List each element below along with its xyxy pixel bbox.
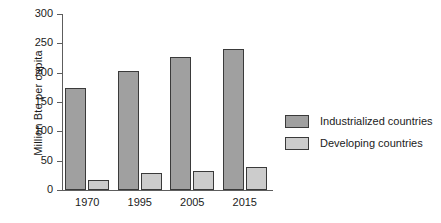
legend-item-industrialized: Industrialized countries bbox=[285, 110, 433, 132]
y-tick: 250 bbox=[57, 43, 62, 44]
x-tick-label: 2015 bbox=[233, 196, 257, 208]
y-tick: 50 bbox=[57, 161, 62, 162]
y-tick: 200 bbox=[57, 73, 62, 74]
legend-swatch-industrialized bbox=[285, 115, 309, 128]
bar bbox=[118, 71, 139, 190]
legend-swatch-developing bbox=[285, 137, 309, 150]
y-tick-label: 0 bbox=[47, 183, 53, 195]
bar bbox=[246, 167, 267, 190]
y-tick-label: 150 bbox=[35, 95, 53, 107]
y-tick-label: 100 bbox=[35, 124, 53, 136]
legend-label-industrialized: Industrialized countries bbox=[320, 115, 433, 127]
bar bbox=[88, 180, 109, 190]
y-tick-label: 50 bbox=[41, 154, 53, 166]
y-tick-label: 200 bbox=[35, 66, 53, 78]
y-tick-label: 250 bbox=[35, 36, 53, 48]
y-tick: 150 bbox=[57, 102, 62, 103]
y-tick: 300 bbox=[57, 14, 62, 15]
y-tick: 0 bbox=[57, 190, 62, 191]
bar-chart: Million Bte per capita 05010015020025030… bbox=[0, 0, 441, 223]
y-axis-line bbox=[62, 14, 63, 190]
plot-area: 050100150200250300 1970199520052015 bbox=[62, 14, 272, 190]
bar bbox=[141, 173, 162, 190]
x-tick-label: 2005 bbox=[180, 196, 204, 208]
x-tick-label: 1995 bbox=[128, 196, 152, 208]
bar bbox=[65, 88, 86, 190]
bar bbox=[193, 171, 214, 190]
y-tick-label: 300 bbox=[35, 7, 53, 19]
y-tick: 100 bbox=[57, 131, 62, 132]
legend-label-developing: Developing countries bbox=[320, 137, 423, 149]
legend-item-developing: Developing countries bbox=[285, 132, 433, 154]
bar bbox=[170, 57, 191, 190]
bar bbox=[223, 49, 244, 190]
x-axis-line bbox=[62, 190, 273, 191]
legend: Industrialized countries Developing coun… bbox=[285, 110, 433, 154]
x-tick-label: 1970 bbox=[75, 196, 99, 208]
